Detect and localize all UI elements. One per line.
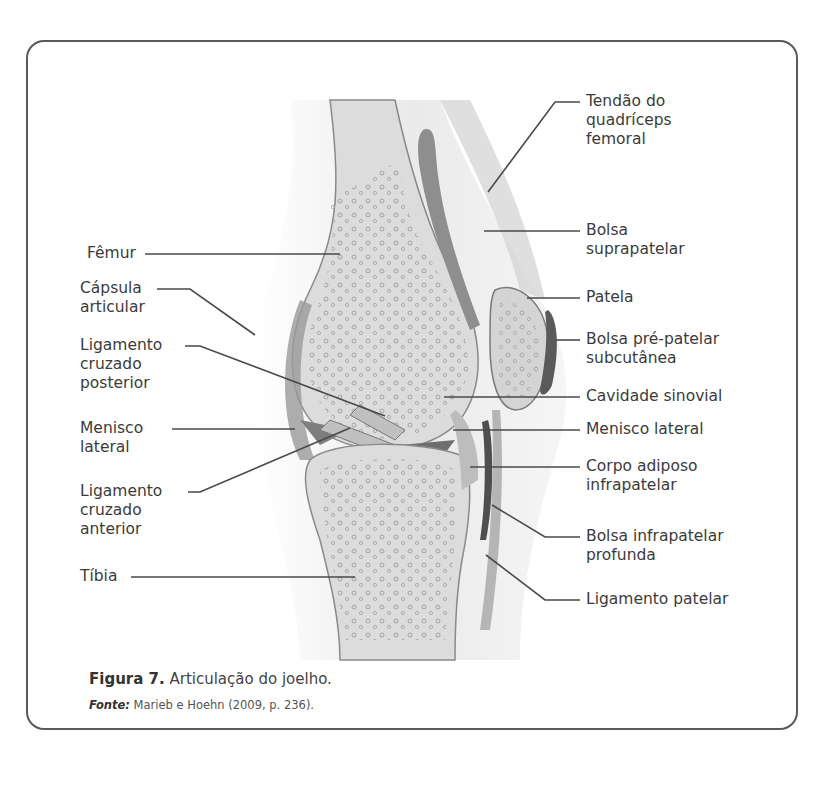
figure-source: Fonte: Marieb e Hoehn (2009, p. 236). [89, 698, 314, 712]
label-ligamento-patelar: Ligamento patelar [586, 590, 728, 609]
figure-caption: Figura 7. Articulação do joelho. [89, 670, 332, 688]
label-bolsa-pre-patelar: Bolsa pré-patelar subcutânea [586, 330, 719, 368]
caption-label: Figura 7. [89, 670, 165, 688]
caption-text: Articulação do joelho. [165, 670, 332, 688]
label-bolsa-suprapatelar: Bolsa suprapatelar [586, 221, 685, 259]
label-menisco-lateral-right: Menisco lateral [586, 420, 704, 439]
label-patela: Patela [586, 288, 634, 307]
source-label: Fonte: [89, 698, 130, 712]
label-menisco-lateral-left: Menisco lateral [80, 419, 143, 457]
label-tibia: Tíbia [80, 567, 117, 586]
label-femur: Fêmur [87, 244, 136, 263]
label-tendao-quadriceps: Tendão do quadríceps femoral [586, 92, 672, 149]
label-ligamento-cruzado-posterior: Ligamento cruzado posterior [80, 336, 162, 393]
label-ligamento-cruzado-anterior: Ligamento cruzado anterior [80, 482, 162, 539]
label-cavidade-sinovial: Cavidade sinovial [586, 387, 722, 406]
label-corpo-adiposo: Corpo adiposo infrapatelar [586, 457, 697, 495]
source-text: Marieb e Hoehn (2009, p. 236). [130, 698, 314, 712]
label-bolsa-infrapatelar: Bolsa infrapatelar profunda [586, 527, 724, 565]
label-capsula-articular: Cápsula articular [80, 279, 145, 317]
